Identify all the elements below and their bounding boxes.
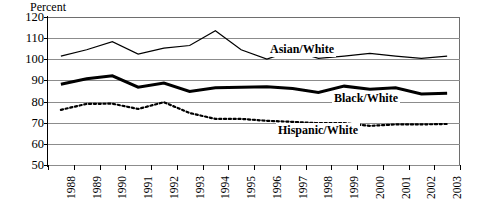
y-tick-label-80: 80 <box>0 96 44 108</box>
x-tick-mark-1999 <box>331 165 332 170</box>
x-tick-mark-1997 <box>280 165 281 170</box>
x-tick-mark-1992 <box>151 165 152 170</box>
x-tick-label-1996: 1996 <box>272 176 283 199</box>
x-tick-mark-2002 <box>409 165 410 170</box>
x-tick-mark-1991 <box>125 165 126 170</box>
x-tick-mark-end <box>460 165 461 170</box>
x-tick-label-2002: 2002 <box>426 176 437 199</box>
y-tick-label-50: 50 <box>0 159 44 171</box>
series-label-black-white: Black/White <box>332 91 400 106</box>
y-axis-tick-labels: 1201101009080706050 <box>0 0 44 203</box>
x-tick-mark-1990 <box>100 165 101 170</box>
x-tick-label-1993: 1993 <box>195 176 206 199</box>
x-tick-label-1992: 1992 <box>169 176 180 199</box>
y-tick-label-90: 90 <box>0 74 44 86</box>
x-tick-mark-1989 <box>74 165 75 170</box>
x-tick-label-2001: 2001 <box>401 176 412 199</box>
y-tick-label-120: 120 <box>0 11 44 23</box>
x-axis-tick-labels: 1988198919901991199219931994199519961997… <box>48 165 460 203</box>
x-tick-mark-2003 <box>434 165 435 170</box>
y-tick-label-70: 70 <box>0 117 44 129</box>
series-line-asian-white <box>61 31 447 59</box>
x-tick-label-1991: 1991 <box>143 176 154 199</box>
y-tick-label-110: 110 <box>0 32 44 44</box>
x-tick-label-2000: 2000 <box>375 176 386 199</box>
x-tick-mark-1998 <box>306 165 307 170</box>
x-tick-label-1999: 1999 <box>349 176 360 199</box>
x-tick-label-1988: 1988 <box>66 176 77 199</box>
series-label-hispanic-white: Hispanic/White <box>276 123 360 138</box>
x-tick-label-1989: 1989 <box>92 176 103 199</box>
x-tick-label-1994: 1994 <box>220 176 231 199</box>
chart-container: Percent 1201101009080706050 198819891990… <box>0 0 477 203</box>
y-tick-label-60: 60 <box>0 138 44 150</box>
x-tick-mark-2001 <box>383 165 384 170</box>
x-tick-mark-1995 <box>228 165 229 170</box>
x-tick-label-2003: 2003 <box>452 176 463 199</box>
y-tick-label-100: 100 <box>0 53 44 65</box>
series-label-asian-white: Asian/White <box>268 42 336 57</box>
x-tick-label-1990: 1990 <box>117 176 128 199</box>
x-tick-mark-1996 <box>254 165 255 170</box>
x-tick-label-1998: 1998 <box>323 176 334 199</box>
x-tick-mark-2000 <box>357 165 358 170</box>
x-tick-mark-1994 <box>203 165 204 170</box>
x-tick-label-1995: 1995 <box>246 176 257 199</box>
x-tick-mark-1993 <box>177 165 178 170</box>
x-tick-label-1997: 1997 <box>298 176 309 199</box>
x-tick-mark-1988 <box>48 165 49 170</box>
